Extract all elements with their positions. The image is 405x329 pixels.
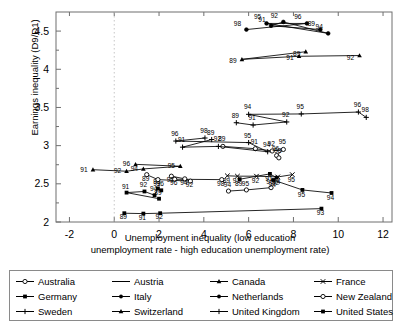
data-point-marker bbox=[303, 49, 308, 53]
legend-item-italy[interactable]: Italy bbox=[111, 291, 209, 302]
legend-item-france[interactable]: France bbox=[313, 276, 391, 287]
data-point-marker bbox=[326, 31, 330, 35]
legend-item-canada[interactable]: Canada bbox=[209, 276, 313, 287]
point-year-label: 91 bbox=[286, 54, 294, 61]
point-year-label: 89 bbox=[120, 213, 128, 220]
legend-item-germany[interactable]: Germany bbox=[15, 291, 111, 302]
point-year-label: 96 bbox=[123, 160, 131, 167]
legend-item-netherlands[interactable]: Netherlands bbox=[209, 291, 313, 302]
data-point-marker bbox=[281, 20, 285, 24]
series-line bbox=[242, 52, 360, 60]
data-point-marker bbox=[364, 115, 369, 120]
data-point-marker bbox=[284, 119, 289, 124]
legend-item-label: United States bbox=[336, 306, 393, 317]
point-year-label: 98 bbox=[234, 20, 242, 27]
data-point-marker bbox=[216, 144, 221, 149]
point-year-label: 92 bbox=[140, 181, 148, 188]
y-axis-label: Earnings inequality (D9/D1) bbox=[29, 0, 40, 158]
point-year-label: 94 bbox=[269, 181, 277, 188]
point-year-label: 95 bbox=[244, 132, 252, 139]
filled-circle-icon bbox=[209, 291, 229, 302]
filled-triangle-icon bbox=[209, 276, 229, 287]
point-year-label: 94 bbox=[180, 179, 188, 186]
filled-square-icon bbox=[313, 306, 333, 317]
point-year-label: 91 bbox=[80, 166, 88, 173]
point-year-label: 91 bbox=[139, 214, 147, 221]
point-year-label: 94 bbox=[315, 23, 323, 30]
legend-item-label: Netherlands bbox=[232, 291, 283, 302]
point-year-label: 93 bbox=[317, 209, 325, 216]
legend-item-australia[interactable]: Australia bbox=[15, 276, 111, 287]
point-year-label: 94 bbox=[327, 194, 335, 201]
data-point-marker bbox=[356, 109, 361, 114]
plus-icon bbox=[209, 306, 229, 317]
point-year-label: 89 bbox=[229, 57, 237, 64]
point-year-label: 92 bbox=[282, 111, 290, 118]
y-tick-label: 2.5 bbox=[34, 177, 49, 189]
legend-item-label: Austria bbox=[134, 276, 164, 287]
legend-item-switzerland[interactable]: Switzerland bbox=[111, 306, 209, 317]
plus-icon bbox=[15, 306, 35, 317]
point-year-label: 98 bbox=[274, 147, 282, 154]
point-year-label: 95 bbox=[297, 103, 305, 110]
legend-item-label: Italy bbox=[134, 291, 151, 302]
point-year-label: 94 bbox=[263, 141, 271, 148]
legend-item-sweden[interactable]: Sweden bbox=[15, 306, 111, 317]
point-year-label: 91 bbox=[248, 114, 256, 121]
point-year-label: 91 bbox=[122, 183, 130, 190]
point-year-label: 92 bbox=[114, 167, 122, 174]
point-year-label: 98 bbox=[362, 106, 370, 113]
x-cross-icon bbox=[313, 276, 333, 287]
data-point-marker bbox=[202, 135, 207, 140]
chart-figure: 22.533.544.5-202468101289919295969894959… bbox=[0, 0, 405, 329]
filled-circle-icon bbox=[111, 291, 131, 302]
point-year-label: 89 bbox=[142, 175, 150, 182]
point-year-label: 96 bbox=[170, 179, 178, 186]
legend-grid: AustraliaAustriaCanadaFranceGermanyItaly… bbox=[15, 274, 387, 319]
data-point-marker bbox=[277, 156, 281, 160]
point-year-label: 98 bbox=[200, 127, 208, 134]
point-year-label: 95 bbox=[288, 176, 296, 183]
point-year-label: 89 bbox=[232, 112, 240, 119]
legend-item-united-kingdom[interactable]: United Kingdom bbox=[209, 306, 313, 317]
data-point-marker bbox=[159, 188, 163, 192]
point-year-label: 95 bbox=[242, 180, 250, 187]
x-axis-label: Unemployment inequality (low education u… bbox=[40, 232, 380, 255]
filled-triangle-icon bbox=[111, 306, 131, 317]
x-axis-label-line1: Unemployment inequality (low education bbox=[40, 232, 380, 244]
data-point-marker bbox=[305, 22, 309, 26]
series-new-zealand: 89919294959698 bbox=[142, 173, 225, 189]
data-point-marker bbox=[125, 191, 129, 195]
series-switzerland: 9192949596 bbox=[80, 160, 182, 174]
legend-item-label: France bbox=[336, 276, 366, 287]
data-point-marker bbox=[281, 147, 285, 151]
series-united-kingdom: 89919294959698 bbox=[232, 101, 370, 128]
point-year-label: 96 bbox=[354, 101, 362, 108]
point-year-label: 89 bbox=[235, 180, 243, 187]
legend-item-label: Switzerland bbox=[134, 306, 183, 317]
data-point-marker bbox=[157, 197, 161, 201]
legend-item-new-zealand[interactable]: New Zealand bbox=[313, 291, 391, 302]
data-point-marker bbox=[143, 190, 147, 194]
series-france: 8991929495 bbox=[223, 172, 296, 185]
series-line bbox=[228, 188, 271, 191]
legend: AustraliaAustriaCanadaFranceGermanyItaly… bbox=[9, 270, 393, 321]
filled-square-icon bbox=[15, 291, 35, 302]
data-point-marker bbox=[226, 189, 230, 193]
axes-frame bbox=[56, 12, 392, 222]
legend-item-austria[interactable]: Austria bbox=[111, 276, 209, 287]
point-year-label: 91 bbox=[251, 138, 259, 145]
point-year-label: 96 bbox=[171, 130, 179, 137]
point-year-label: 92 bbox=[271, 12, 279, 19]
point-year-label: 95 bbox=[168, 162, 176, 169]
data-point-marker bbox=[244, 188, 248, 192]
point-year-label: 94 bbox=[244, 103, 252, 110]
legend-item-united-states[interactable]: United States bbox=[313, 306, 391, 317]
point-year-label: 92 bbox=[155, 213, 163, 220]
series-line bbox=[124, 209, 321, 214]
x-axis-label-line2: unemployment rate - high education unemp… bbox=[40, 244, 380, 256]
point-year-label: 95 bbox=[279, 138, 287, 145]
data-point-marker bbox=[299, 111, 304, 116]
y-tick-label: 4 bbox=[43, 63, 49, 75]
y-tick-label: 2 bbox=[43, 216, 49, 228]
